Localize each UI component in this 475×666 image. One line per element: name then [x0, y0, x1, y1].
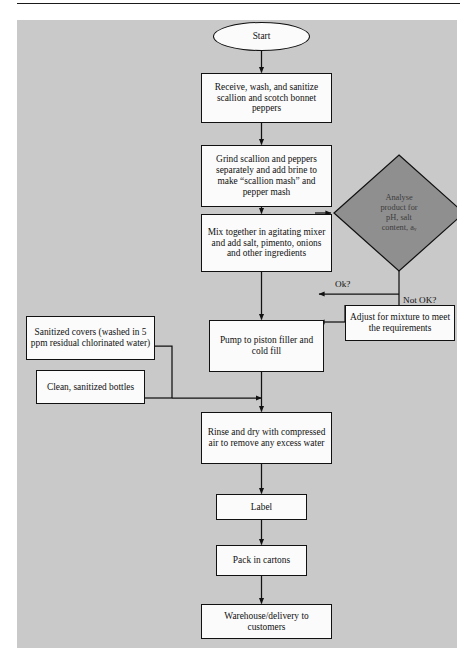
- node-pump-label: Pump to piston filler and cold fill: [213, 335, 320, 357]
- node-label: Label: [216, 494, 307, 520]
- node-analyse-label-group: Analyse product for pH, salt content, aᵥ: [365, 183, 433, 243]
- node-analyse-line-3: pH, salt: [380, 213, 417, 223]
- node-receive-label: Receive, wash, and sanitize scallion and…: [205, 82, 328, 115]
- node-analyse-line-4: content, aᵥ: [380, 223, 417, 233]
- node-pack: Pack in cartons: [216, 545, 307, 576]
- node-mix-label: Mix together in agitating mixer and add …: [205, 227, 328, 260]
- top-divider-rule: [17, 3, 460, 4]
- node-analyse-line-1: Analyse: [380, 193, 417, 203]
- node-start: Start: [213, 22, 310, 51]
- node-pump: Pump to piston filler and cold fill: [209, 320, 324, 372]
- node-rinse: Rinse and dry with compressed air to rem…: [201, 412, 332, 464]
- node-clean-bottles-label: Clean, sanitized bottles: [47, 382, 134, 393]
- flowchart-figure-panel: Start Receive, wash, and sanitize scalli…: [17, 20, 457, 648]
- node-adjust: Adjust for mixture to meet the requireme…: [345, 305, 455, 341]
- node-mix: Mix together in agitating mixer and add …: [201, 214, 332, 272]
- node-warehouse: Warehouse/delivery to customers: [201, 604, 332, 639]
- node-grind: Grind scallion and peppers separately an…: [201, 145, 332, 207]
- node-rinse-label: Rinse and dry with compressed air to rem…: [205, 427, 328, 449]
- node-analyse-line-2: product for: [380, 203, 417, 213]
- node-receive: Receive, wash, and sanitize scallion and…: [201, 73, 332, 123]
- node-clean-bottles: Clean, sanitized bottles: [36, 370, 145, 404]
- edge-label-not-ok: Not OK?: [403, 295, 436, 305]
- node-grind-label: Grind scallion and peppers separately an…: [205, 154, 328, 198]
- node-sanitized-covers-label: Sanitized covers (washed in 5 ppm residu…: [30, 327, 151, 349]
- node-label-label: Label: [251, 502, 272, 513]
- node-pack-label: Pack in cartons: [233, 555, 290, 566]
- node-adjust-label: Adjust for mixture to meet the requireme…: [349, 312, 451, 334]
- edge-label-ok: Ok?: [335, 279, 350, 289]
- node-sanitized-covers: Sanitized covers (washed in 5 ppm residu…: [26, 316, 155, 360]
- node-start-label: Start: [253, 31, 271, 42]
- node-warehouse-label: Warehouse/delivery to customers: [205, 611, 328, 633]
